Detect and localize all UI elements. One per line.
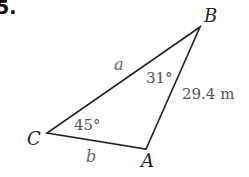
vertex-label-b: B [203,5,217,26]
angle-label-b: 31° [146,69,173,87]
side-length-ab: 29.4 m [182,85,234,103]
vertex-label-a: A [139,150,154,171]
angle-label-c: 45° [74,116,101,134]
side-label-b: b [86,147,96,166]
vertex-label-c: C [27,128,41,149]
triangle-diagram: B C A a b 29.4 m 31° 45° [0,0,249,177]
triangle-shape [47,27,200,149]
side-label-a: a [114,55,124,74]
